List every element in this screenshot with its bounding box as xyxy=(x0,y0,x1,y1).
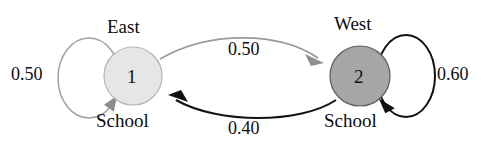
state-node-2-name-top: West xyxy=(334,14,372,33)
state-node-1-id: 1 xyxy=(127,67,137,86)
state-node-2-name-bottom: School xyxy=(324,111,377,130)
transition-label-2-to-1: 0.40 xyxy=(228,119,260,137)
transition-label-1-to-2: 0.50 xyxy=(228,40,260,58)
transition-arc-2-to-1 xyxy=(168,90,336,118)
state-node-1-name-top: East xyxy=(107,17,140,36)
markov-chain-diagram: 1 East School 2 West School 0.50 0.50 0.… xyxy=(0,0,484,142)
state-node-2-id: 2 xyxy=(354,67,364,86)
transition-label-1-to-1: 0.50 xyxy=(11,65,43,83)
state-node-1-name-bottom: School xyxy=(96,111,149,130)
transition-label-2-to-2: 0.60 xyxy=(437,65,469,83)
